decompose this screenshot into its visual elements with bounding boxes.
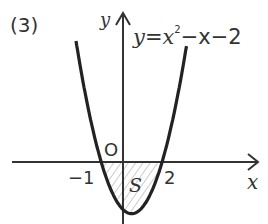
tick-label-two: 2 xyxy=(164,167,175,188)
region-label-s: S xyxy=(129,174,142,196)
parabola-diagram: (3) y y=x2−x−2 O −1 2 x S xyxy=(0,0,268,224)
origin-label: O xyxy=(104,139,118,160)
tick-label-minus-one: −1 xyxy=(68,167,95,188)
equation-label: y=x2−x−2 xyxy=(132,24,242,49)
y-axis-label: y xyxy=(99,9,111,30)
x-axis-label: x xyxy=(247,170,258,194)
problem-number: (3) xyxy=(10,13,38,37)
